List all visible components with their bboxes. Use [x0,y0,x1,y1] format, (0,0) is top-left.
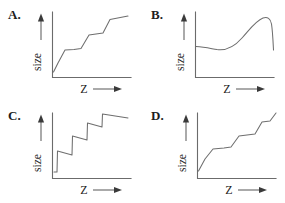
panel-b-y-arrow-icon [181,14,187,41]
panel-b: B. size Z [143,0,285,101]
panel-c-xlabel: Z [80,183,87,197]
panel-c-curve [54,114,128,172]
panel-c-y-arrow-icon [38,115,44,142]
panel-b-plot: size Z [143,0,285,101]
panel-b-ylabel: size [174,53,186,71]
panel-a-x-arrow-icon [93,86,122,92]
panel-b-x-arrow-icon [236,86,265,92]
panel-b-xlabel: Z [223,82,230,96]
panel-c: C. size Z [0,101,142,202]
panel-d-axes [198,113,277,179]
panel-c-plot: size Z [0,101,142,202]
panel-d-x-arrow-icon [238,187,267,193]
panel-d-y-arrow-icon [183,115,189,142]
panel-a-plot: size Z [0,0,142,101]
panel-a-ylabel: size [31,53,43,71]
panel-b-curve [196,18,274,50]
panel-a: A. size Z [0,0,142,101]
panel-a-xlabel: Z [80,82,87,96]
panel-a-y-arrow-icon [38,14,44,41]
panel-d-ylabel: size [176,154,188,172]
panel-d-plot: size Z [143,101,285,202]
panel-d-curve [199,113,277,171]
panel-d: D. size Z [143,101,285,202]
panel-a-axes [53,12,132,78]
panel-d-xlabel: Z [225,183,232,197]
panel-c-ylabel: size [31,154,43,172]
figure-four-panel-graphs: A. size Z B. [0,0,285,203]
panel-c-x-arrow-icon [93,187,122,193]
panel-c-axes [53,113,132,179]
panel-a-curve [54,16,129,72]
